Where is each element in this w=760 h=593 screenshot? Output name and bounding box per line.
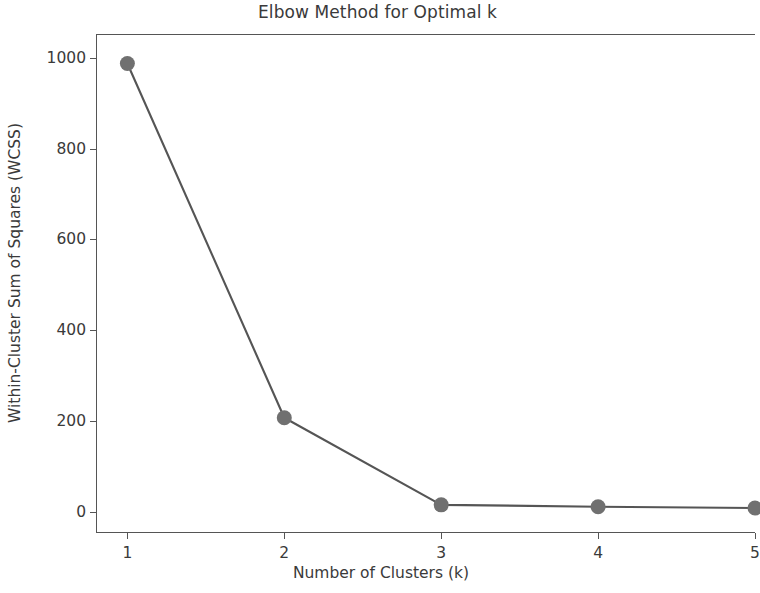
data-point-marker xyxy=(748,501,760,516)
x-tick-mark xyxy=(127,533,128,539)
y-tick-mark xyxy=(90,239,96,240)
y-tick-label: 1000 xyxy=(47,49,86,67)
chart-title: Elbow Method for Optimal k xyxy=(0,2,755,22)
y-tick-label: 800 xyxy=(56,140,86,158)
x-tick-label: 3 xyxy=(436,544,446,562)
x-tick-mark xyxy=(598,533,599,539)
data-point-marker xyxy=(120,56,135,71)
x-axis-label: Number of Clusters (k) xyxy=(96,564,666,582)
series-markers xyxy=(120,56,760,516)
y-tick-mark xyxy=(90,512,96,513)
data-point-marker xyxy=(434,497,449,512)
data-point-marker xyxy=(277,410,292,425)
x-tick-label: 1 xyxy=(122,544,132,562)
y-tick-label: 200 xyxy=(56,412,86,430)
x-tick-label: 2 xyxy=(279,544,289,562)
x-tick-label: 5 xyxy=(750,544,760,562)
x-tick-mark xyxy=(441,533,442,539)
y-tick-mark xyxy=(90,421,96,422)
line-series-svg xyxy=(96,34,755,533)
y-tick-mark xyxy=(90,58,96,59)
y-tick-mark xyxy=(90,149,96,150)
x-tick-label: 4 xyxy=(593,544,603,562)
plot-area: 02004006008001000 12345 xyxy=(96,34,755,533)
data-point-marker xyxy=(591,499,606,514)
series-line xyxy=(127,63,755,508)
y-tick-label: 0 xyxy=(76,503,86,521)
x-tick-mark xyxy=(284,533,285,539)
y-tick-label: 600 xyxy=(56,230,86,248)
y-axis-label: Within-Cluster Sum of Squares (WCSS) xyxy=(6,23,30,523)
y-tick-mark xyxy=(90,330,96,331)
y-tick-label: 400 xyxy=(56,321,86,339)
x-tick-mark xyxy=(755,533,756,539)
